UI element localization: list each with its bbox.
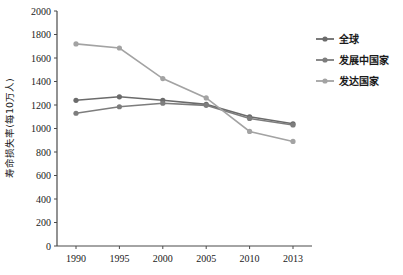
- x-axis-tick-labels: 199019952000200520102013: [66, 253, 303, 264]
- series-2: [73, 41, 295, 144]
- data-point: [247, 129, 252, 134]
- data-point: [160, 101, 165, 106]
- y-tick-label: 600: [36, 170, 51, 181]
- chart-container: 寿命损失率(每10万人) 020040060080010001200140016…: [0, 0, 403, 275]
- data-point: [117, 94, 122, 99]
- data-series-group: [73, 41, 295, 144]
- legend-label: 发展中国家: [338, 54, 390, 66]
- legend-item-2[interactable]: 发达国家: [316, 75, 380, 87]
- data-point: [204, 95, 209, 100]
- chart-legend: 全球发展中国家发达国家: [316, 33, 390, 87]
- legend-marker-icon: [322, 57, 327, 62]
- y-axis-tick-labels: 0200400600800100012001400160018002000: [31, 6, 51, 252]
- y-tick-label: 1400: [31, 76, 51, 87]
- data-point: [73, 41, 78, 46]
- legend-item-1[interactable]: 发展中国家: [316, 54, 390, 66]
- series-line: [76, 103, 293, 125]
- data-point: [160, 76, 165, 81]
- legend-item-0[interactable]: 全球: [316, 33, 360, 45]
- data-point: [247, 116, 252, 121]
- legend-marker-icon: [322, 78, 327, 83]
- series-0: [73, 94, 295, 126]
- y-tick-label: 1800: [31, 29, 51, 40]
- y-axis-label: 寿命损失率(每10万人): [4, 78, 15, 178]
- y-tick-label: 200: [36, 217, 51, 228]
- data-point: [290, 139, 295, 144]
- x-tick-label: 1995: [109, 253, 129, 264]
- x-tick-label: 2013: [283, 253, 303, 264]
- y-tick-label: 2000: [31, 6, 51, 17]
- y-axis-label-text: 寿命损失率(每10万人): [4, 78, 15, 178]
- legend-marker-icon: [322, 36, 327, 41]
- y-tick-label: 1000: [31, 123, 51, 134]
- axes: [54, 11, 312, 249]
- data-point: [204, 103, 209, 108]
- y-tick-label: 0: [46, 241, 51, 252]
- x-tick-label: 2010: [240, 253, 260, 264]
- y-tick-label: 1600: [31, 53, 51, 64]
- series-1: [73, 101, 295, 128]
- x-tick-label: 1990: [66, 253, 86, 264]
- series-line: [76, 44, 293, 142]
- data-point: [117, 45, 122, 50]
- data-point: [290, 122, 295, 127]
- legend-label: 全球: [338, 33, 360, 45]
- y-tick-label: 400: [36, 194, 51, 205]
- data-point: [117, 104, 122, 109]
- x-tick-label: 2000: [153, 253, 173, 264]
- line-chart-svg: 寿命损失率(每10万人) 020040060080010001200140016…: [0, 0, 403, 275]
- legend-label: 发达国家: [338, 75, 380, 87]
- y-tick-label: 800: [36, 147, 51, 158]
- y-tick-label: 1200: [31, 100, 51, 111]
- data-point: [73, 98, 78, 103]
- data-point: [73, 111, 78, 116]
- x-tick-label: 2005: [196, 253, 216, 264]
